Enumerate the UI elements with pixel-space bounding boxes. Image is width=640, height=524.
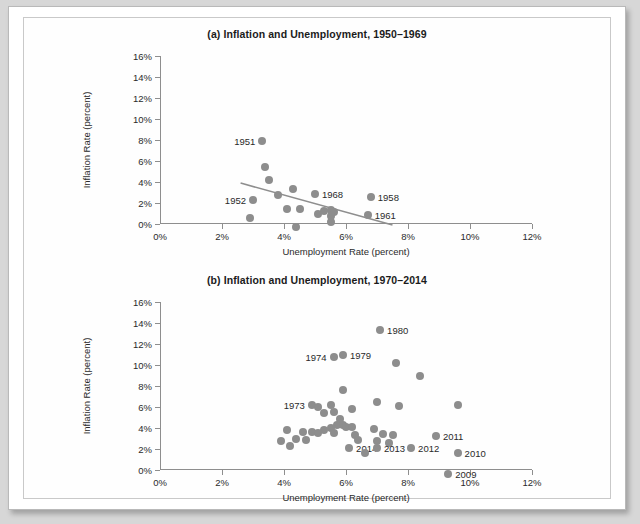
data-point xyxy=(367,193,375,201)
chart-a-y-tick xyxy=(155,182,160,183)
data-point xyxy=(444,470,452,478)
data-point xyxy=(370,425,378,433)
chart-a-y-tick xyxy=(155,203,160,204)
chart-b-y-tick-label: 16% xyxy=(133,297,152,308)
chart-panel-b: (b) Inflation and Unemployment, 1970–201… xyxy=(24,270,610,508)
chart-b-x-tick-label: 6% xyxy=(339,477,353,488)
chart-b-y-tick-label: 14% xyxy=(133,318,152,329)
chart-a-x-tick xyxy=(532,224,533,229)
chart-b-x-tick xyxy=(222,470,223,475)
chart-b-y-tick-label: 10% xyxy=(133,360,152,371)
chart-b-y-tick xyxy=(155,386,160,387)
data-point-label: 2013 xyxy=(384,442,405,453)
chart-b-y-tick xyxy=(155,365,160,366)
chart-a-x-axis-title: Unemployment Rate (percent) xyxy=(282,246,409,257)
data-point xyxy=(265,176,273,184)
chart-b-x-tick xyxy=(408,470,409,475)
data-point xyxy=(277,437,285,445)
chart-a-y-tick-label: 6% xyxy=(138,156,152,167)
data-point xyxy=(330,429,338,437)
data-point xyxy=(274,191,282,199)
chart-b-y-axis-title: Inflation Rate (percent) xyxy=(81,338,92,435)
chart-b-y-tick xyxy=(155,302,160,303)
chart-a-x-tick-label: 2% xyxy=(215,231,229,242)
data-point xyxy=(361,449,369,457)
data-point-label: 2009 xyxy=(455,469,476,480)
chart-panel-a: (a) Inflation and Unemployment, 1950–196… xyxy=(24,24,610,270)
chart-b-y-tick xyxy=(155,470,160,471)
chart-a-x-tick-label: 6% xyxy=(339,231,353,242)
chart-a-title: (a) Inflation and Unemployment, 1950–196… xyxy=(24,28,610,40)
data-point-label: 1951 xyxy=(234,136,255,147)
data-point xyxy=(286,442,294,450)
chart-b-plot-area: Unemployment Rate (percent) Inflation Ra… xyxy=(160,302,532,470)
chart-a-y-tick xyxy=(155,98,160,99)
chart-b-y-tick-label: 2% xyxy=(138,444,152,455)
chart-b-x-tick-label: 4% xyxy=(277,477,291,488)
data-point-label: 1958 xyxy=(378,191,399,202)
chart-a-y-tick-label: 8% xyxy=(138,135,152,146)
data-point xyxy=(327,218,335,226)
chart-b-x-tick xyxy=(284,470,285,475)
data-point xyxy=(373,398,381,406)
chart-a-y-tick-label: 4% xyxy=(138,177,152,188)
chart-a-y-tick xyxy=(155,56,160,57)
data-point-label: 1952 xyxy=(225,194,246,205)
data-point-label: 1973 xyxy=(284,399,305,410)
chart-a-plot-area: Unemployment Rate (percent) Inflation Ra… xyxy=(160,56,532,224)
data-point xyxy=(299,428,307,436)
chart-b-y-tick-label: 12% xyxy=(133,339,152,350)
chart-a-x-tick xyxy=(346,224,347,229)
chart-b-x-tick-label: 2% xyxy=(215,477,229,488)
chart-a-y-tick xyxy=(155,140,160,141)
chart-a-y-tick xyxy=(155,119,160,120)
data-point xyxy=(407,444,415,452)
chart-a-x-tick-label: 0% xyxy=(153,231,167,242)
chart-b-y-tick xyxy=(155,323,160,324)
data-point xyxy=(373,444,381,452)
chart-a-y-tick-label: 16% xyxy=(133,51,152,62)
data-point xyxy=(249,196,257,204)
data-point-label: 2010 xyxy=(465,448,486,459)
chart-a-y-tick-label: 0% xyxy=(138,219,152,230)
chart-b-y-tick xyxy=(155,428,160,429)
data-point-label: 1979 xyxy=(350,349,371,360)
chart-a-y-axis-title: Inflation Rate (percent) xyxy=(81,92,92,189)
chart-a-x-tick xyxy=(284,224,285,229)
chart-b-y-tick-label: 4% xyxy=(138,423,152,434)
page-frame: (a) Inflation and Unemployment, 1950–196… xyxy=(8,6,626,510)
data-point-label: 1961 xyxy=(375,209,396,220)
chart-b-y-tick-label: 6% xyxy=(138,402,152,413)
data-point-label: 1974 xyxy=(305,351,326,362)
chart-a-x-tick-label: 8% xyxy=(401,231,415,242)
chart-b-x-tick xyxy=(346,470,347,475)
chart-b-x-tick-label: 8% xyxy=(401,477,415,488)
data-point xyxy=(246,214,254,222)
chart-b-y-tick xyxy=(155,449,160,450)
chart-a-y-tick xyxy=(155,161,160,162)
chart-a-y-tick-label: 2% xyxy=(138,198,152,209)
chart-b-x-tick xyxy=(532,470,533,475)
chart-a-trendline xyxy=(160,56,532,224)
data-point xyxy=(416,372,424,380)
chart-a-x-tick xyxy=(222,224,223,229)
data-point xyxy=(292,435,300,443)
chart-a-y-tick xyxy=(155,224,160,225)
data-point-label: 2012 xyxy=(418,442,439,453)
chart-b-y-tick xyxy=(155,344,160,345)
data-point xyxy=(330,353,338,361)
data-point xyxy=(454,401,462,409)
data-point xyxy=(395,402,403,410)
chart-b-x-tick-label: 12% xyxy=(522,477,541,488)
chart-a-y-tick-label: 12% xyxy=(133,93,152,104)
data-point xyxy=(339,351,347,359)
chart-b-x-tick-label: 0% xyxy=(153,477,167,488)
data-point-label: 2011 xyxy=(443,431,463,442)
data-point xyxy=(292,223,300,231)
chart-b-y-tick xyxy=(155,407,160,408)
data-point xyxy=(364,211,372,219)
chart-a-y-tick-label: 10% xyxy=(133,114,152,125)
data-point-label: 1980 xyxy=(387,325,408,336)
chart-b-y-tick-label: 8% xyxy=(138,381,152,392)
chart-a-x-tick xyxy=(408,224,409,229)
